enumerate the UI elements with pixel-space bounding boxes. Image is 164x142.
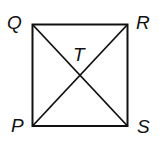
vertex-label-r: R [136, 12, 150, 33]
vertex-label-s: S [137, 116, 150, 137]
vertex-label-q: Q [7, 12, 22, 33]
intersection-label-t: T [73, 44, 86, 65]
square-diagram: Q R S P T [0, 0, 164, 142]
vertex-label-p: P [11, 115, 24, 136]
